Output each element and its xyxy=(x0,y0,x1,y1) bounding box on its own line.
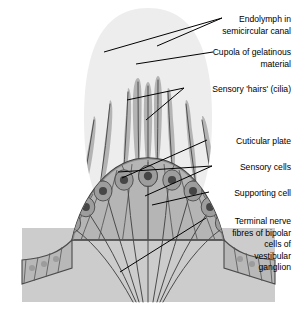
label-endolymph-line-0: Endolymph in xyxy=(239,14,291,24)
label-sensory-hairs: Sensory 'hairs' (cilia) xyxy=(212,84,291,94)
label-cupola-line-0: Cupola of gelatinous xyxy=(213,47,291,57)
label-endolymph-line-1: semicircular canal xyxy=(222,26,291,36)
label-cuticular-plate-line-0: Cuticular plate xyxy=(236,136,291,146)
label-terminal-nerve-fibres-line-2: cells of xyxy=(264,239,291,249)
label-terminal-nerve-fibres-line-4: ganglion xyxy=(259,262,292,272)
vestibular-crista-diagram: Endolymph insemicircular canalCupola of … xyxy=(0,0,297,313)
label-terminal-nerve-fibres-line-0: Terminal nerve xyxy=(235,216,292,226)
diagram-canvas: Endolymph insemicircular canalCupola of … xyxy=(0,0,297,313)
label-terminal-nerve-fibres-line-3: vestibular xyxy=(254,251,291,261)
label-cupola-line-1: material xyxy=(260,59,291,69)
label-sensory-cells: Sensory cells xyxy=(240,162,291,172)
label-endolymph: Endolymph insemicircular canal xyxy=(222,14,291,36)
label-terminal-nerve-fibres-line-1: fibres of bipolar xyxy=(232,228,291,238)
label-cuticular-plate: Cuticular plate xyxy=(236,136,291,146)
label-supporting-cell: Supporting cell xyxy=(234,188,291,198)
label-sensory-hairs-line-0: Sensory 'hairs' (cilia) xyxy=(212,84,291,94)
label-cupola: Cupola of gelatinousmaterial xyxy=(213,47,291,69)
label-supporting-cell-line-0: Supporting cell xyxy=(234,188,291,198)
label-sensory-cells-line-0: Sensory cells xyxy=(240,162,291,172)
